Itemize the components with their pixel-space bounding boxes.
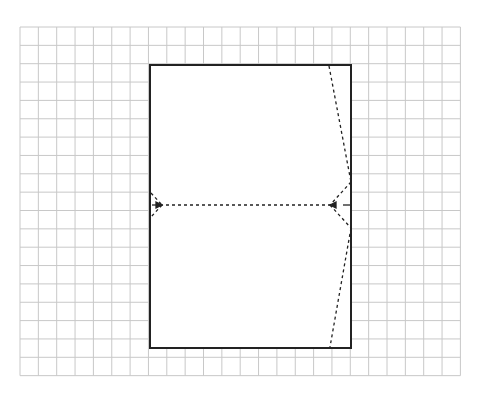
paper-sheet: [150, 65, 351, 348]
fold-diagram: [0, 0, 481, 408]
